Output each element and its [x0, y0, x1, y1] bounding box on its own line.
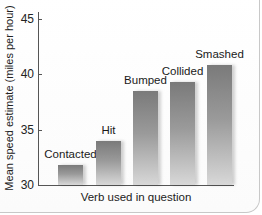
bar-label: Contacted	[44, 148, 96, 160]
x-axis-line	[38, 185, 234, 186]
y-axis-line	[38, 12, 39, 186]
y-tick-label: 40	[4, 68, 34, 80]
bar-label: Hit	[101, 124, 115, 136]
y-tick-label: 45	[4, 13, 34, 25]
bar-label: Bumped	[124, 74, 167, 86]
bar-hit	[96, 141, 121, 185]
bar-label: Collided	[162, 65, 204, 77]
bar-collided	[170, 82, 195, 185]
bar-label: Smashed	[195, 48, 244, 60]
y-tick-45	[38, 19, 42, 20]
y-axis-title: Mean speed estimate (miles per hour)	[3, 5, 15, 190]
bar-bumped	[133, 91, 158, 185]
bar-smashed	[207, 65, 232, 185]
bar-contacted	[58, 165, 83, 185]
x-axis-title: Verb used in question	[0, 191, 262, 203]
y-tick-label: 35	[4, 124, 34, 136]
y-tick-30	[38, 185, 42, 186]
y-tick-40	[38, 74, 42, 75]
y-tick-35	[38, 130, 42, 131]
y-tick-label: 30	[4, 179, 34, 191]
